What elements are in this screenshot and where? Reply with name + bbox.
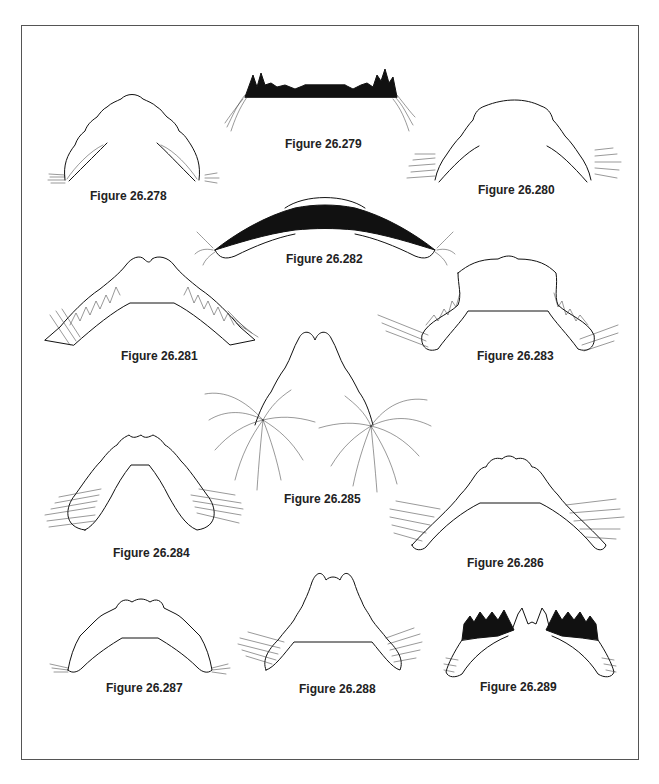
- figure-278-caption: Figure 26.278: [90, 189, 167, 203]
- figure-287-caption: Figure 26.287: [106, 681, 183, 695]
- figure-280-caption: Figure 26.280: [478, 183, 555, 197]
- figure-288-drawing: [238, 570, 423, 675]
- figure-282-caption: Figure 26.282: [286, 252, 363, 266]
- figure-281-caption: Figure 26.281: [121, 349, 198, 363]
- figure-279-caption: Figure 26.279: [285, 137, 362, 151]
- figure-287-drawing: [50, 598, 230, 678]
- figure-286-caption: Figure 26.286: [467, 556, 544, 570]
- figure-288-caption: Figure 26.288: [299, 682, 376, 696]
- figure-280-drawing: [405, 100, 625, 190]
- figure-284-drawing: [45, 435, 245, 535]
- figure-284-caption: Figure 26.284: [113, 546, 190, 560]
- figure-279-drawing: [225, 65, 415, 135]
- figure-283-caption: Figure 26.283: [477, 349, 554, 363]
- figure-278-drawing: [45, 95, 225, 190]
- figure-286-drawing: [390, 455, 625, 550]
- figure-285-caption: Figure 26.285: [284, 492, 361, 506]
- figure-289-drawing: [438, 600, 623, 680]
- figure-289-caption: Figure 26.289: [480, 680, 557, 694]
